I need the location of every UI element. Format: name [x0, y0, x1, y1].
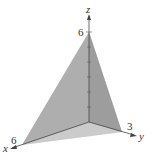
y-axis-label: y [138, 130, 144, 142]
y-arrow-icon [130, 133, 137, 137]
tetrahedron-diagram: z 6 x 6 y 3 [0, 0, 161, 160]
x-intercept-label: 6 [11, 134, 17, 146]
z-axis-label: z [85, 3, 91, 15]
z-intercept-label: 6 [78, 26, 84, 38]
y-intercept-label: 3 [127, 120, 133, 132]
x-axis-label: x [2, 142, 8, 154]
